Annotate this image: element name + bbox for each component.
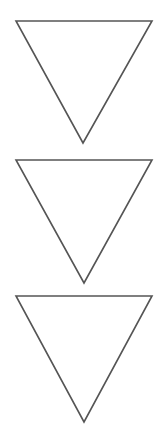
background-rect [0,0,165,443]
triangles-figure [0,0,165,443]
image-canvas [0,0,165,443]
